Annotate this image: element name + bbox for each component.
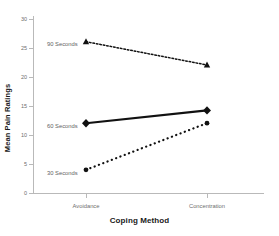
series-30-seconds (84, 121, 210, 172)
series-30-seconds-marker-concentration (205, 121, 210, 126)
series-layer (0, 0, 279, 236)
series-30-seconds-line (86, 123, 207, 170)
series-60-seconds-marker-avoidance (82, 119, 90, 127)
series-90-seconds-marker-avoidance (83, 38, 89, 44)
series-60-seconds (82, 106, 211, 127)
series-60-seconds-line (86, 110, 207, 123)
chart-figure: Mean Pain Ratings Coping Method 30 25 20… (0, 0, 279, 236)
series-60-seconds-marker-concentration (203, 106, 211, 114)
series-90-seconds-line (86, 42, 207, 65)
series-90-seconds (83, 38, 210, 67)
series-30-seconds-marker-avoidance (84, 167, 89, 172)
